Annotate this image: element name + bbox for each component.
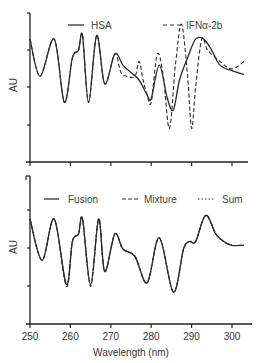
x-tick-260: 260 bbox=[62, 331, 79, 342]
x-tick-250: 250 bbox=[22, 331, 39, 342]
x-tick-300: 300 bbox=[224, 331, 241, 342]
legend-fusion: Fusion bbox=[68, 194, 98, 205]
bottom-panel: AU Fusion Mixture Sum 250260270280290300… bbox=[8, 176, 252, 358]
spectra-figure: AU HSA IFNα-2b AU Fusion Mixture Sum 250… bbox=[0, 0, 261, 363]
legend-mixture: Mixture bbox=[144, 194, 177, 205]
legend-hsa: HSA bbox=[91, 20, 112, 31]
top-legend: HSA IFNα-2b bbox=[68, 20, 223, 31]
series-ifn-2b bbox=[30, 24, 244, 128]
x-tick-270: 270 bbox=[102, 331, 119, 342]
top-y-label: AU bbox=[8, 78, 19, 92]
x-tick-280: 280 bbox=[143, 331, 160, 342]
x-axis-label: Wavelength (nm) bbox=[93, 347, 169, 358]
bottom-legend: Fusion Mixture Sum bbox=[44, 194, 243, 205]
top-series bbox=[30, 24, 244, 128]
x-tick-290: 290 bbox=[183, 331, 200, 342]
legend-sum: Sum bbox=[222, 194, 243, 205]
series-fusion bbox=[30, 215, 244, 292]
x-tick-labels: 250260270280290300 bbox=[22, 331, 241, 342]
bottom-series bbox=[30, 215, 244, 292]
bottom-y-label: AU bbox=[8, 240, 19, 254]
top-panel: AU HSA IFNα-2b bbox=[8, 13, 248, 166]
legend-ifn: IFNα-2b bbox=[186, 20, 223, 31]
